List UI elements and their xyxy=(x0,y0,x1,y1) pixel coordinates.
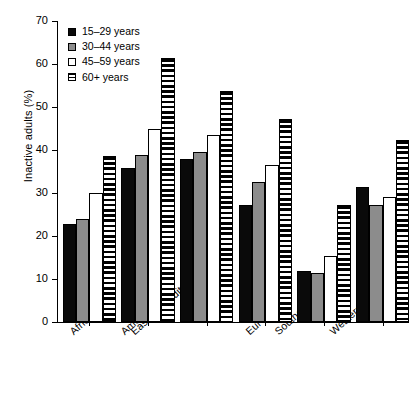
bar xyxy=(265,165,278,322)
y-tick: 40 xyxy=(52,150,57,151)
bar xyxy=(135,155,148,322)
bar xyxy=(207,135,220,322)
y-axis-title: Inactive adults (%) xyxy=(22,16,34,256)
x-tick xyxy=(207,322,208,326)
bar xyxy=(252,182,265,322)
y-tick-label: 40 xyxy=(36,143,52,155)
legend-swatch-icon xyxy=(68,43,76,51)
y-tick-label: 50 xyxy=(36,100,52,112)
bar xyxy=(220,91,233,322)
bar xyxy=(297,271,310,322)
bar xyxy=(324,256,337,322)
bar xyxy=(311,273,324,322)
bar xyxy=(383,197,396,322)
y-tick: 70 xyxy=(52,21,57,22)
bar xyxy=(279,119,292,322)
bar xyxy=(193,152,206,322)
legend-swatch-icon xyxy=(68,58,76,66)
legend-swatch-icon xyxy=(68,73,76,81)
chart-legend: 15–29 years30–44 years45–59 years60+ yea… xyxy=(68,24,140,85)
legend-item: 30–44 years xyxy=(68,39,140,54)
y-axis-line xyxy=(57,21,58,323)
y-tick: 50 xyxy=(52,107,57,108)
x-tick xyxy=(383,322,384,326)
bar xyxy=(161,58,174,322)
y-tick: 20 xyxy=(52,236,57,237)
bar xyxy=(76,219,89,322)
y-tick: 10 xyxy=(52,279,57,280)
y-tick: 60 xyxy=(52,64,57,65)
bar xyxy=(369,205,382,322)
bar-chart-figure: Inactive adults (%) 010203040506070 Afri… xyxy=(0,0,416,420)
legend-item: 45–59 years xyxy=(68,54,140,69)
y-tick-label: 10 xyxy=(36,272,52,284)
y-tick-label: 70 xyxy=(36,14,52,26)
y-tick-label: 0 xyxy=(42,315,52,327)
y-tick-label: 60 xyxy=(36,57,52,69)
x-axis-line xyxy=(57,322,409,323)
bar xyxy=(239,205,252,322)
caption-strip xyxy=(0,408,416,420)
legend-label: 60+ years xyxy=(82,70,128,85)
bar xyxy=(89,193,102,322)
y-tick: 0 xyxy=(52,322,57,323)
x-tick xyxy=(324,322,325,326)
y-tick: 30 xyxy=(52,193,57,194)
legend-label: 30–44 years xyxy=(82,39,140,54)
legend-label: 45–59 years xyxy=(82,54,140,69)
y-tick-label: 30 xyxy=(36,186,52,198)
bar xyxy=(148,129,161,322)
bar xyxy=(396,140,409,322)
bar xyxy=(337,205,350,322)
y-tick-label: 20 xyxy=(36,229,52,241)
bar xyxy=(356,187,369,322)
bar xyxy=(103,156,116,322)
legend-swatch-icon xyxy=(68,28,76,36)
bar xyxy=(63,224,76,322)
legend-item: 15–29 years xyxy=(68,24,140,39)
legend-label: 15–29 years xyxy=(82,24,140,39)
bar xyxy=(121,168,134,322)
bar xyxy=(180,159,193,322)
legend-item: 60+ years xyxy=(68,70,140,85)
